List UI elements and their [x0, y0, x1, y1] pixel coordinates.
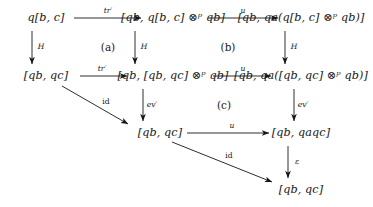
label-tr-prime-top: tr′: [104, 7, 112, 15]
label-u-top: u: [241, 7, 246, 15]
node-qb-qc-row4: [qb, qc]: [279, 184, 323, 195]
node-qb-qa-qb-qc-tensor-qb: [qb, qa([qb, qc] ⊗ᵖ qb)]: [234, 70, 368, 81]
node-q-b-c: q[b, c]: [27, 12, 64, 23]
node-qb-q-b-c-tensor-qb: [qb, q[b, c] ⊗ᵖ qb]: [121, 12, 225, 23]
label-epsilon: ε: [295, 158, 299, 166]
arrow-id-lower-diagonal: [172, 142, 272, 182]
label-H-middle: H: [141, 43, 148, 51]
cell-label-a: (a): [101, 42, 115, 52]
label-u-mid: u: [241, 65, 246, 73]
label-ev-prime-right: ev′: [298, 101, 309, 109]
cell-label-b: (b): [221, 42, 236, 52]
commutative-diagram: q[b, c] [qb, q[b, c] ⊗ᵖ qb] [qb, qa(q[b,…: [0, 0, 373, 207]
cell-label-c: (c): [217, 100, 231, 110]
label-id-upper-diagonal: id: [102, 98, 109, 106]
label-id-lower-diagonal: id: [225, 152, 232, 160]
label-H-right: H: [291, 43, 298, 51]
label-tr-prime-mid: tr′: [98, 65, 106, 73]
label-ev-prime-middle: ev′: [147, 101, 158, 109]
node-qb-qa-q-b-c-tensor-qb: [qb, qa(q[b, c] ⊗ᵖ qb)]: [238, 12, 365, 23]
node-qb-qb-qc-tensor-qb: [qb, [qb, qc] ⊗ᵖ qb]: [117, 70, 228, 81]
node-qb-qaqc: [qb, qaqc]: [272, 127, 330, 138]
arrow-id-upper-diagonal: [62, 86, 128, 124]
diagram-arrows-layer: [0, 0, 373, 207]
label-u-row3: u: [230, 122, 235, 130]
label-H-left: H: [38, 43, 45, 51]
node-qb-qc-row3: [qb, qc]: [138, 127, 182, 138]
node-qb-qc-row2: [qb, qc]: [24, 70, 68, 81]
